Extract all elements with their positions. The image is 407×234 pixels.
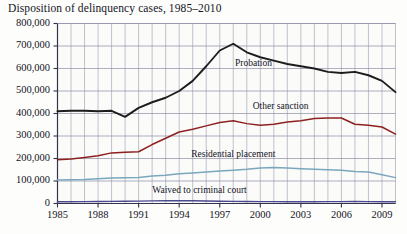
series-label-probation: Probation	[235, 58, 272, 68]
series-label-other-sanction: Other sanction	[253, 101, 309, 111]
x-axis-tick-label: 1991	[119, 209, 159, 220]
y-axis-tick-label: 100,000	[0, 174, 55, 185]
x-axis-tick-label: 2000	[240, 209, 280, 220]
x-axis-tick-label: 1985	[38, 209, 78, 220]
series-label-waived-to-criminal-court: Waived to criminal court	[152, 185, 246, 195]
x-axis-tick-label: 1997	[200, 209, 240, 220]
x-axis-tick-label: 2003	[281, 209, 321, 220]
y-axis-tick-label: 800,000	[0, 17, 55, 28]
x-axis-tick-label: 1988	[78, 209, 118, 220]
x-axis-tick-label: 2009	[362, 209, 402, 220]
x-axis-ticks	[58, 204, 382, 208]
y-axis-tick-label: 700,000	[0, 39, 55, 50]
series-label-residential-placement: Residential placement	[191, 149, 275, 159]
y-axis-tick-label: 600,000	[0, 62, 55, 73]
chart-plot-area	[0, 0, 407, 234]
y-axis-tick-label: 400,000	[0, 107, 55, 118]
chart-title: Disposition of delinquency cases, 1985–2…	[8, 2, 222, 14]
chart-figure: Disposition of delinquency cases, 1985–2…	[0, 0, 407, 234]
x-axis-tick-label: 2006	[321, 209, 361, 220]
y-axis-tick-label: 0	[0, 197, 55, 208]
y-axis-tick-label: 300,000	[0, 129, 55, 140]
y-axis-tick-label: 500,000	[0, 84, 55, 95]
y-axis-tick-label: 200,000	[0, 152, 55, 163]
x-axis-tick-label: 1994	[159, 209, 199, 220]
